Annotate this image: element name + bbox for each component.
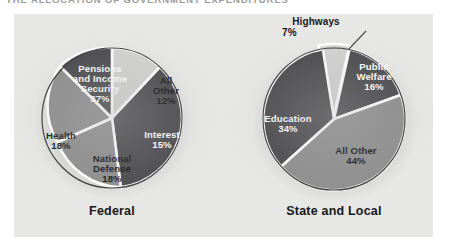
state-local-pie-chart: Highways 7% Public Welfare 16% Education… xyxy=(219,14,433,237)
federal-pie-chart: Pensions and Income Security 37% All Oth… xyxy=(14,14,224,237)
figure-root: THE ALLOCATION OF GOVERNMENT EXPENDITURE… xyxy=(0,0,450,246)
chart-panel: Pensions and Income Security 37% All Oth… xyxy=(14,14,433,237)
caption-federal: Federal xyxy=(62,204,162,218)
figure-title: THE ALLOCATION OF GOVERNMENT EXPENDITURE… xyxy=(6,0,406,6)
caption-state-and-local: State and Local xyxy=(269,204,399,218)
